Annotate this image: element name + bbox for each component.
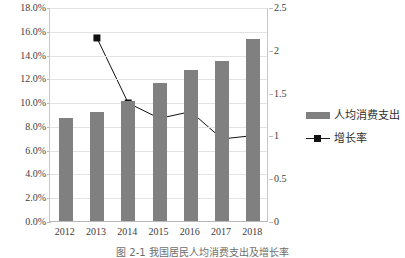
x-axis-tick-label: 2015 [143, 226, 174, 238]
bar[interactable] [90, 112, 104, 221]
legend-item-label: 人均消费支出 [334, 109, 400, 122]
left-axis-tick-label: 12.0% [0, 74, 46, 84]
left-axis-tick-label: 10.0% [0, 98, 46, 108]
chart-legend: 人均消费支出 增长率 [306, 105, 405, 151]
right-axis-tick-label: 1.5 [274, 89, 314, 99]
right-axis-tick-mark [269, 8, 273, 9]
legend-item-bar[interactable]: 人均消费支出 [306, 105, 405, 125]
gridline [50, 32, 267, 33]
left-axis-tick-label: 2.0% [0, 193, 46, 203]
figure-caption: 图 2-1 我国居民人均消费支出及增长率 [0, 247, 405, 258]
x-axis-tick-label: 2016 [174, 226, 205, 238]
gridline [50, 79, 267, 80]
right-axis-tick-mark [269, 222, 273, 223]
line-square-swatch-icon [306, 134, 330, 143]
gridline [50, 56, 267, 57]
left-axis-tick-mark [47, 222, 51, 223]
left-axis-tick-label: 6.0% [0, 146, 46, 156]
right-axis-tick-label: 0 [274, 217, 314, 227]
bar[interactable] [121, 101, 135, 221]
gridline [50, 8, 267, 9]
left-axis-tick-label: 18.0% [0, 3, 46, 13]
left-axis-tick-label: 0.0% [0, 217, 46, 227]
bar-swatch-icon [306, 112, 330, 119]
left-axis-tick-label: 16.0% [0, 27, 46, 37]
bar[interactable] [153, 83, 167, 221]
x-axis-tick-label: 2013 [80, 226, 111, 238]
left-axis-tick-label: 8.0% [0, 122, 46, 132]
legend-item-label: 增长率 [334, 132, 367, 145]
left-axis-tick-label: 14.0% [0, 51, 46, 61]
bar[interactable] [59, 118, 73, 221]
bar[interactable] [184, 70, 198, 221]
right-axis-tick-label: 0.5 [274, 174, 314, 184]
bar[interactable] [215, 61, 229, 222]
x-axis-tick-label: 2017 [205, 226, 236, 238]
right-axis-tick-mark [269, 51, 273, 52]
x-axis-tick-label: 2014 [112, 226, 143, 238]
x-axis: 2012201320142015201620172018 [49, 226, 268, 240]
left-axis-tick-label: 4.0% [0, 169, 46, 179]
legend-item-line[interactable]: 增长率 [306, 128, 405, 148]
right-axis-tick-mark [269, 94, 273, 95]
right-axis-tick-mark [269, 136, 273, 137]
x-axis-tick-label: 2018 [237, 226, 268, 238]
bar[interactable] [246, 39, 260, 221]
line-marker[interactable] [93, 34, 100, 41]
right-axis-tick-label: 2 [274, 46, 314, 56]
x-axis-tick-label: 2012 [49, 226, 80, 238]
left-axis: 18.0%16.0%14.0%12.0%10.0%8.0%6.0%4.0%2.0… [0, 8, 46, 222]
chart-container: 18.0%16.0%14.0%12.0%10.0%8.0%6.0%4.0%2.0… [0, 0, 405, 258]
plot-area [49, 8, 268, 222]
right-axis-tick-label: 2.5 [274, 3, 314, 13]
right-axis-tick-mark [269, 179, 273, 180]
